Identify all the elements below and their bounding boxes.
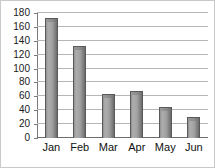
bar-top-cap [131,92,142,95]
bar [187,117,200,138]
y-tick-label: 80 [19,77,30,87]
y-tick-label: 100 [13,64,30,74]
axis-baseline [37,137,208,138]
y-tick-label: 120 [13,50,30,60]
x-tick-label: May [151,141,180,154]
bar-top-cap [74,47,85,50]
bar-top-cap [160,108,171,111]
bar-top-cap [188,118,199,121]
gridline [37,26,208,27]
bar [130,91,143,138]
y-tick-label: 160 [13,22,30,32]
gridline [37,68,208,69]
bar [45,18,58,138]
y-tick-label: 40 [19,105,30,115]
gridline [37,109,208,110]
x-tick-label: Apr [123,141,152,154]
gridline [37,95,208,96]
plot-area [37,13,208,138]
y-tick-label: 60 [19,91,30,101]
bar [73,46,86,138]
y-axis-tick-labels: 020406080100120140160180 [1,1,35,168]
x-tick-label: Jan [37,141,66,154]
bar-top-cap [103,95,114,98]
x-tick-label: Mar [94,141,123,154]
gridline [37,54,208,55]
gridline [37,81,208,82]
y-tick-label: 0 [24,133,30,143]
bar-top-cap [46,19,57,22]
gridline [37,12,208,13]
bar-chart-figure: 020406080100120140160180 JanFebMarAprMay… [0,0,215,168]
gridline [37,40,208,41]
x-tick-label: Feb [66,141,95,154]
y-tick-label: 20 [19,119,30,129]
y-tick-label: 140 [13,36,30,46]
x-axis-tick-labels: JanFebMarAprMayJun [37,141,208,157]
gridline [37,123,208,124]
bar [102,94,115,138]
x-tick-label: Jun [180,141,209,154]
y-tick-label: 180 [13,8,30,18]
bar [159,107,172,138]
